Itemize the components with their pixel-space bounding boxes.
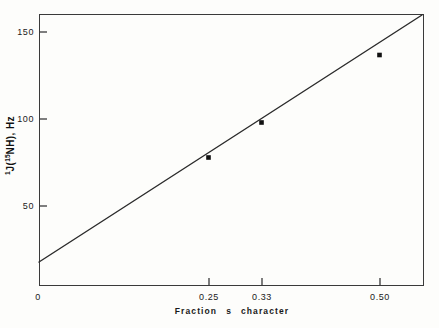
y-tick-label-50: 50: [10, 201, 34, 211]
y-axis-label-sup-one: 1: [4, 171, 11, 175]
figure-panel: 150 100 50 0 0.25 0.33 0.50 Fractionscha…: [0, 0, 439, 328]
x-axis-label-word-3: character: [241, 306, 289, 316]
data-point: [206, 155, 211, 160]
y-axis-label: 1J(15NH), Hz: [4, 116, 16, 175]
x-tick-label-033: 0.33: [252, 292, 272, 302]
x-tick-label-0: 0: [35, 292, 41, 302]
plot-canvas: [0, 0, 439, 328]
y-axis-label-nh: NH), Hz: [5, 116, 16, 154]
data-points: [206, 53, 382, 160]
y-axis-label-j: J(: [5, 162, 16, 172]
y-axis-ticks: [39, 32, 47, 206]
x-tick-label-050: 0.50: [370, 292, 390, 302]
x-axis-label-word-1: Fraction: [175, 306, 217, 316]
x-axis-label-word-2: s: [226, 306, 232, 316]
y-tick-label-150: 150: [10, 27, 34, 37]
regression-line: [39, 15, 422, 262]
x-axis-label: Fractionscharacter: [175, 306, 289, 316]
data-point: [259, 120, 264, 125]
x-tick-label-025: 0.25: [199, 292, 219, 302]
x-axis-ticks: [209, 278, 380, 286]
data-point: [377, 53, 382, 58]
y-axis-label-sup-iso: 15: [4, 154, 11, 161]
